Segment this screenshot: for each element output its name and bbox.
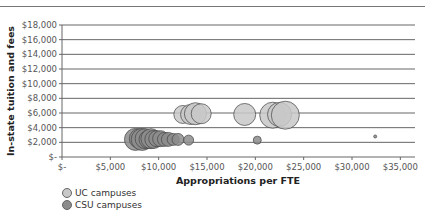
x-tick-label: $25,000 (286, 162, 321, 172)
legend: UC campuses CSU campuses (62, 187, 142, 211)
x-tick-label: $15,000 (189, 162, 224, 172)
y-tick-label: $6,000 (27, 108, 57, 118)
x-tick-label: $10,000 (141, 162, 176, 172)
x-tick-label: $- (58, 162, 66, 172)
bubble-chart: $-$2,000$4,000$6,000$8,000$10,000$12,000… (0, 0, 425, 218)
y-axis-label: In-state tuition and fees (5, 26, 16, 156)
legend-item-csu: CSU campuses (62, 199, 142, 211)
legend-item-uc: UC campuses (62, 187, 142, 199)
axes: $-$2,000$4,000$6,000$8,000$10,000$12,000… (22, 20, 418, 172)
bubble (374, 135, 377, 138)
y-tick-label: $12,000 (22, 64, 57, 74)
bubble (253, 136, 261, 144)
gridlines (62, 25, 415, 157)
x-axis-label: Appropriations per FTE (176, 175, 300, 186)
x-tick-label: $30,000 (334, 162, 369, 172)
y-tick-label: $2,000 (27, 137, 57, 147)
y-tick-label: $10,000 (22, 79, 57, 89)
y-tick-label: $4,000 (27, 123, 57, 133)
bubble (234, 103, 256, 125)
x-tick-label: $20,000 (238, 162, 273, 172)
y-tick-label: $18,000 (22, 20, 57, 30)
csu-marker-icon (62, 200, 72, 210)
bubble (172, 133, 184, 145)
y-tick-label: $16,000 (22, 35, 57, 45)
bubbles (124, 101, 376, 150)
x-tick-label: $5,000 (95, 162, 125, 172)
bubble (184, 135, 194, 145)
uc-marker-icon (62, 188, 72, 198)
bubble (271, 101, 299, 129)
y-tick-label: $- (49, 152, 57, 162)
y-tick-label: $8,000 (27, 93, 57, 103)
x-tick-label: $35,000 (383, 162, 418, 172)
y-tick-label: $14,000 (22, 49, 57, 59)
bubble (191, 104, 211, 124)
